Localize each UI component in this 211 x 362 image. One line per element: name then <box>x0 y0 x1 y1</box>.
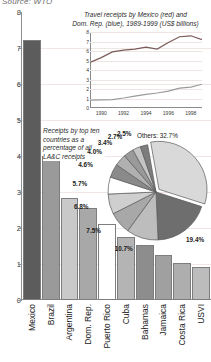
line-chart-y-tick-label: 3 <box>79 77 89 83</box>
bar-chart-bar-fill <box>23 40 41 300</box>
pie-label: 19.4% <box>186 236 204 243</box>
pie-label: 4.6% <box>78 161 93 168</box>
bar-chart-category-label: Bahamas <box>136 303 154 361</box>
line-chart-x-tick-label: 1992 <box>118 110 129 116</box>
bar-chart-category-label: Jamaica <box>155 303 173 361</box>
bar-chart-category-label-text: Dom. Rep. <box>83 304 93 345</box>
pie-chart-slices <box>98 136 211 248</box>
line-chart-x-tick-label: 1994 <box>140 110 151 116</box>
bar-chart-category-label-text: Jamaica <box>158 304 168 336</box>
pie-label: 5.7% <box>73 180 88 187</box>
bar-chart-bar-fill <box>155 255 173 300</box>
line-chart-y-tick-label: 8 <box>79 29 89 35</box>
line-chart-y-tick-label: 7 <box>79 39 89 45</box>
line-chart-series-dom-rep <box>90 84 202 100</box>
line-chart-title: Travel receipts by Mexico (red) and Dom.… <box>60 10 211 28</box>
bar-chart-category-label-text: Cuba <box>121 304 131 324</box>
pie-chart: Others: 32.7%19.4%10.7%7.5%6.8%5.7%4.6%4… <box>98 136 211 248</box>
bar-chart-bar-fill <box>136 245 154 300</box>
bar-chart-category-labels: MexicoBrazilArgentinaDom. Rep.Puerto Ric… <box>23 303 210 361</box>
infographic-root: Source: WTO 012345678 MexicoBrazilArgent… <box>0 0 211 362</box>
line-chart-y-tick-label: 4 <box>79 67 89 73</box>
bar-chart-y-tick-mark <box>18 12 22 13</box>
pie-label: 4.0% <box>87 148 102 155</box>
bar-chart-y-tick-mark <box>18 300 22 301</box>
line-chart-x-tick-label: 1998 <box>185 110 196 116</box>
line-chart-y-tick-label: 5 <box>79 58 89 64</box>
line-chart-title-line1: Travel receipts by Mexico (red) and <box>60 10 211 19</box>
line-chart-series-mexico <box>90 36 202 63</box>
line-chart-series <box>90 32 202 108</box>
line-chart-y-tick-label: 1 <box>79 96 89 102</box>
bar-chart-category-label-text: Costa Rica <box>177 304 187 346</box>
pie-chart-caption: Receipts by top ten countries as a perce… <box>43 127 105 161</box>
source-note: Source: WTO <box>2 0 53 6</box>
bar-chart-category-label: Mexico <box>23 303 41 361</box>
bar-chart-category-label: USVI <box>192 303 210 361</box>
bar-chart-bar-fill <box>192 267 210 300</box>
bar-chart-bar <box>23 12 41 300</box>
bar-chart-category-label: Puerto Rico <box>98 303 116 361</box>
line-chart: Travel receipts by Mexico (red) and Dom.… <box>60 10 211 130</box>
bar-chart-category-label-text: Argentina <box>64 304 74 340</box>
pie-label: 10.7% <box>115 245 133 252</box>
line-chart-y-tick-label: 2 <box>79 86 89 92</box>
line-chart-x-tick-label: 1996 <box>163 110 174 116</box>
bar-chart-category-label-text: Puerto Rico <box>102 304 112 348</box>
bar-chart-category-label: Costa Rica <box>173 303 191 361</box>
bar-chart-category-label-text: USVI <box>196 304 206 324</box>
pie-label-others: Others: 32.7% <box>137 132 178 139</box>
line-chart-y-tick-label: 0 <box>79 105 89 111</box>
bar-chart-category-label: Cuba <box>117 303 135 361</box>
bar-chart-category-label: Dom. Rep. <box>79 303 97 361</box>
pie-label: 7.5% <box>86 227 101 234</box>
bar-chart-category-label: Brazil <box>42 303 60 361</box>
bar-chart-bar-fill <box>79 208 97 300</box>
pie-label: 6.8% <box>74 203 89 210</box>
bar-chart-bar-fill <box>173 263 191 300</box>
bar-chart-category-label-text: Mexico <box>27 304 37 331</box>
line-chart-plot: 012345678 19901992199419961998 <box>90 32 202 108</box>
bar-chart-bar-fill <box>61 198 79 300</box>
pie-label: 2.5% <box>117 130 132 137</box>
line-chart-title-line2: Dom. Rep. (blue), 1989-1999 (US$ billion… <box>60 19 211 28</box>
bar-chart-category-label-text: Brazil <box>46 304 56 325</box>
bar-chart-bar-fill <box>42 156 60 300</box>
bar-chart-category-label: Argentina <box>61 303 79 361</box>
line-chart-y-tick-label: 6 <box>79 48 89 54</box>
line-chart-x-tick-label: 1990 <box>96 110 107 116</box>
bar-chart-category-label-text: Bahamas <box>140 304 150 340</box>
